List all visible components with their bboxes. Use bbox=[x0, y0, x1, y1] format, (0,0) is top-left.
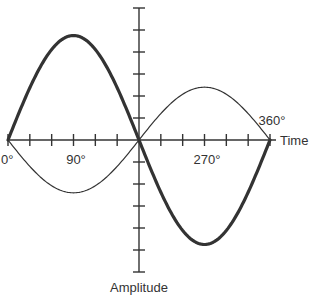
x-tick-label-90: 90° bbox=[66, 152, 86, 167]
y-axis-label: Amplitude bbox=[110, 280, 168, 295]
x-tick-label-360: 360° bbox=[259, 113, 286, 128]
x-tick-label-270: 270° bbox=[194, 152, 221, 167]
sine-wave-diagram: Time Amplitude 0° 90° 270° 360° bbox=[0, 0, 316, 300]
axes bbox=[8, 8, 276, 272]
x-tick-label-0: 0° bbox=[1, 152, 13, 167]
x-axis-label: Time bbox=[280, 133, 308, 148]
